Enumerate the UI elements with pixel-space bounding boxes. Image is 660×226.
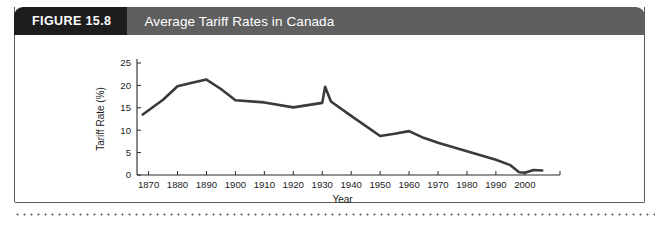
y-tick-label: 5 bbox=[126, 147, 131, 158]
figure-bottom-dotted-rule bbox=[14, 213, 655, 216]
y-tick-label: 10 bbox=[120, 125, 131, 136]
tariff-rate-line-chart: 0510152025 18701880189019001910192019301… bbox=[14, 35, 645, 203]
x-axis-ticks bbox=[149, 171, 560, 175]
x-tick-label: 1970 bbox=[427, 179, 448, 190]
figure-container: FIGURE 15.8 Average Tariff Rates in Cana… bbox=[0, 0, 660, 226]
x-tick-label: 1890 bbox=[196, 179, 217, 190]
x-tick-label: 1950 bbox=[369, 179, 390, 190]
x-tick-label: 1930 bbox=[312, 179, 333, 190]
x-tick-label: 1990 bbox=[485, 179, 506, 190]
x-tick-label: 1910 bbox=[254, 179, 275, 190]
x-tick-label: 1900 bbox=[225, 179, 246, 190]
y-tick-label: 15 bbox=[120, 102, 131, 113]
y-axis-ticks bbox=[137, 63, 141, 175]
x-tick-label: 1880 bbox=[167, 179, 188, 190]
x-axis-tick-labels: 1870188018901900191019201930194019501960… bbox=[138, 179, 536, 190]
y-axis-title: Tariff Rate (%) bbox=[95, 87, 106, 151]
x-tick-label: 1870 bbox=[138, 179, 159, 190]
figure-title: Average Tariff Rates in Canada bbox=[127, 7, 645, 35]
y-tick-label: 25 bbox=[120, 57, 131, 68]
y-axis-tick-labels: 0510152025 bbox=[120, 57, 131, 180]
y-tick-label: 0 bbox=[126, 169, 131, 180]
chart-plot-area: 0510152025 18701880189019001910192019301… bbox=[14, 35, 645, 203]
y-tick-label: 20 bbox=[120, 80, 131, 91]
x-tick-label: 1960 bbox=[398, 179, 419, 190]
x-tick-label: 1980 bbox=[456, 179, 477, 190]
figure-number-tag: FIGURE 15.8 bbox=[14, 7, 127, 35]
figure-header: FIGURE 15.8 Average Tariff Rates in Cana… bbox=[14, 7, 645, 35]
tariff-rate-series-line bbox=[143, 80, 542, 173]
x-tick-label: 1920 bbox=[283, 179, 304, 190]
x-tick-label: 2000 bbox=[514, 179, 535, 190]
x-tick-label: 1940 bbox=[341, 179, 362, 190]
x-axis-title: Year bbox=[332, 194, 353, 203]
